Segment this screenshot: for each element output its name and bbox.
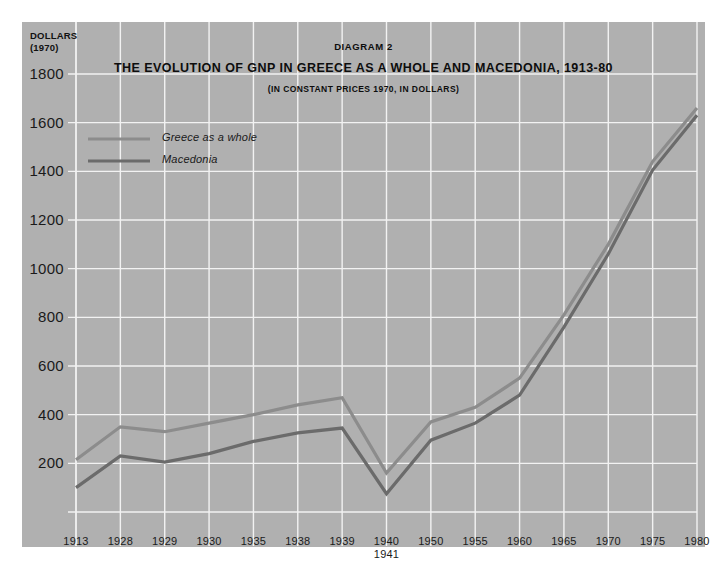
y-tick-label: 1200 bbox=[8, 212, 64, 227]
y-tick-label: 1800 bbox=[8, 66, 64, 81]
y-tick-label: 1000 bbox=[8, 261, 64, 276]
y-tick-label: 600 bbox=[8, 358, 64, 373]
chart-title: THE EVOLUTION OF GNP IN GREECE AS A WHOL… bbox=[0, 61, 727, 75]
legend-label: Macedonia bbox=[162, 153, 218, 165]
y-tick-label: 800 bbox=[8, 309, 64, 324]
chart-subtitle: (IN CONSTANT PRICES 1970, IN DOLLARS) bbox=[0, 84, 727, 94]
y-tick-label: 200 bbox=[8, 455, 64, 470]
y-tick-label: 400 bbox=[8, 407, 64, 422]
figure-container: DOLLARS (1970) DIAGRAM 2 THE EVOLUTION O… bbox=[0, 0, 727, 569]
y-tick-label: 1400 bbox=[8, 163, 64, 178]
y-tick-label: 1600 bbox=[8, 115, 64, 130]
diagram-number: DIAGRAM 2 bbox=[0, 41, 727, 52]
x-tick-label: 1980 bbox=[667, 535, 727, 548]
legend-label: Greece as a whole bbox=[162, 131, 257, 143]
